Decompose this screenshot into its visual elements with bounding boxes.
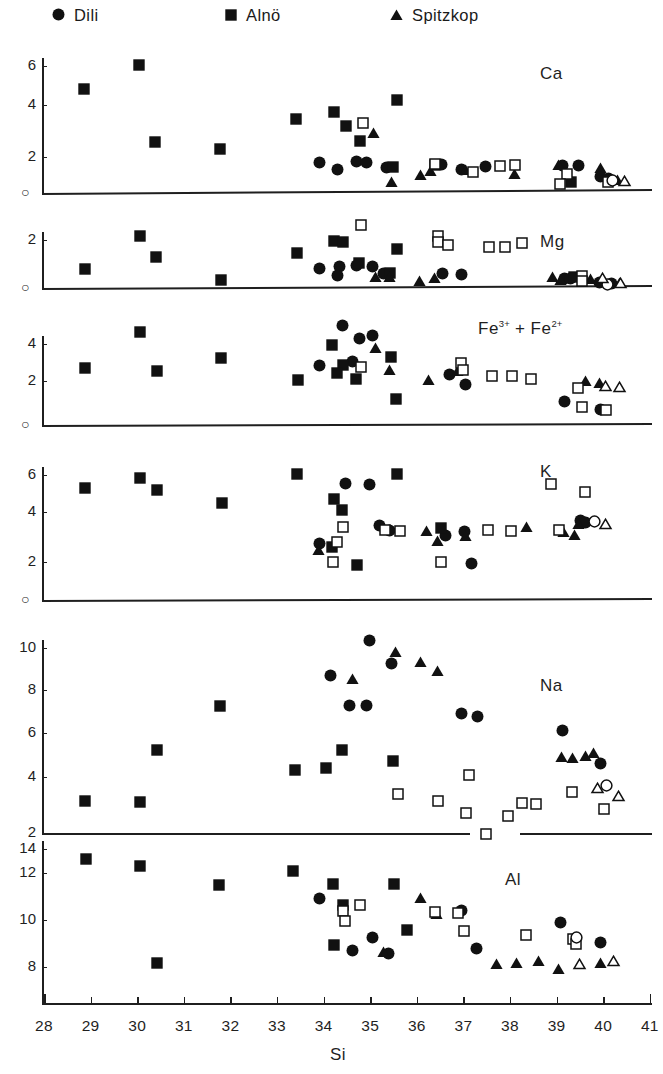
x-tick-label: 29 [74,1017,108,1035]
x-tick [44,997,45,1003]
y-tick-label: 12 [10,863,36,880]
x-tick [603,997,604,1003]
data-point-circle-filled [366,931,379,944]
x-tick [91,997,92,1003]
data-point-circle-filled [594,936,607,949]
data-point-triangle-filled [377,946,390,958]
x-tick [137,997,138,1003]
x-tick-label: 34 [307,1017,341,1035]
data-point-circle-open [570,931,583,944]
y-tick [42,967,47,968]
data-point-square-open [339,915,351,927]
data-point-square-open [520,929,532,941]
data-point-square-open [458,925,470,937]
data-point-triangle-open [573,958,586,970]
data-point-circle-filled [554,916,567,929]
y-tick-label: 8 [10,957,36,974]
y-axis-line [42,841,44,1004]
data-point-square-filled [151,957,163,969]
x-tick-label: 37 [446,1017,480,1035]
x-tick [463,997,464,1003]
x-tick [650,997,651,1003]
data-point-square-filled [213,879,225,891]
data-point-square-open [429,906,441,918]
x-tick [277,997,278,1003]
x-tick-label: 39 [540,1017,574,1035]
data-point-square-filled [388,878,400,890]
y-tick [42,873,47,874]
x-tick-label: 36 [400,1017,434,1035]
data-point-circle-filled [346,944,359,957]
x-tick-label: 35 [353,1017,387,1035]
x-axis-label: Si [330,1045,346,1065]
y-tick [42,920,47,921]
data-point-square-filled [327,878,339,890]
data-point-circle-filled [313,892,326,905]
x-tick-label: 41 [633,1017,663,1035]
data-point-square-filled [80,853,92,865]
data-point-square-filled [328,939,340,951]
x-tick-label: 33 [260,1017,294,1035]
data-point-square-filled [287,865,299,877]
x-axis-line [42,1003,652,1005]
x-tick-label: 31 [167,1017,201,1035]
x-tick-label: 32 [213,1017,247,1035]
y-tick [42,849,47,850]
data-point-triangle-filled [510,957,523,969]
x-tick-label: 28 [27,1017,61,1035]
x-tick-label: 38 [493,1017,527,1035]
y-tick-label: 14 [10,839,36,856]
data-point-triangle-filled [490,958,503,970]
x-tick [184,997,185,1003]
x-tick [230,997,231,1003]
data-point-triangle-filled [532,955,545,967]
x-tick [324,997,325,1003]
data-point-triangle-open [607,955,620,967]
data-point-triangle-filled [552,963,565,975]
x-tick [557,997,558,1003]
x-tick [417,997,418,1003]
data-point-square-filled [134,860,146,872]
data-point-square-filled [401,924,413,936]
data-point-square-open [354,899,366,911]
x-tick [370,997,371,1003]
data-point-circle-filled [470,942,483,955]
x-tick [510,997,511,1003]
x-tick-label: 40 [586,1017,620,1035]
data-point-triangle-filled [594,957,607,969]
data-point-square-open [452,907,464,919]
x-tick-label: 30 [120,1017,154,1035]
y-tick-label: 10 [10,910,36,927]
panel-title: Al [505,870,521,890]
data-point-triangle-filled [414,892,427,904]
